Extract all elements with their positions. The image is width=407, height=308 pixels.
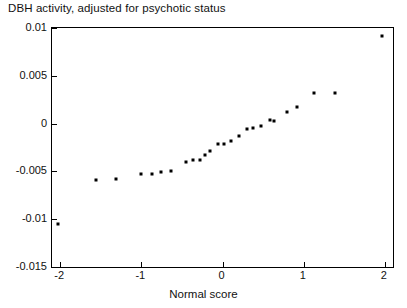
data-point bbox=[198, 159, 201, 162]
data-point bbox=[192, 159, 195, 162]
x-tick-mark bbox=[385, 262, 386, 267]
y-tick-label: -0.01 bbox=[22, 212, 47, 224]
data-point bbox=[217, 143, 220, 146]
x-tick-label: 1 bbox=[300, 269, 306, 281]
data-point bbox=[150, 173, 153, 176]
data-point bbox=[229, 140, 232, 143]
data-point bbox=[209, 149, 212, 152]
data-point bbox=[252, 127, 255, 130]
data-point bbox=[140, 172, 143, 175]
chart-figure: DBH activity, adjusted for psychotic sta… bbox=[0, 0, 407, 308]
y-tick-mark bbox=[52, 76, 57, 77]
data-point bbox=[334, 92, 337, 95]
data-point bbox=[203, 154, 206, 157]
y-tick-mark bbox=[52, 219, 57, 220]
x-tick-mark bbox=[60, 262, 61, 267]
x-tick-label: -2 bbox=[54, 269, 64, 281]
y-tick-label: 0.005 bbox=[19, 69, 47, 81]
y-tick-label: -0.015 bbox=[16, 260, 47, 272]
data-point bbox=[170, 170, 173, 173]
data-point bbox=[159, 170, 162, 173]
y-tick-mark bbox=[52, 28, 57, 29]
data-point bbox=[56, 222, 59, 225]
y-tick-label: 0.01 bbox=[26, 21, 47, 33]
data-point bbox=[184, 160, 187, 163]
plot-area bbox=[51, 27, 394, 268]
y-tick-mark bbox=[52, 124, 57, 125]
data-point bbox=[223, 142, 226, 145]
data-point bbox=[296, 105, 299, 108]
x-tick-mark bbox=[141, 262, 142, 267]
y-tick-mark bbox=[52, 171, 57, 172]
y-tick-mark bbox=[52, 267, 57, 268]
x-tick-mark bbox=[223, 262, 224, 267]
data-point bbox=[285, 111, 288, 114]
data-point bbox=[380, 34, 383, 37]
data-point bbox=[260, 125, 263, 128]
x-tick-label: -1 bbox=[135, 269, 145, 281]
y-tick-label: 0 bbox=[41, 117, 47, 129]
y-tick-label: -0.005 bbox=[16, 164, 47, 176]
y-axis-labels: 0.010.0050-0.005-0.01-0.015 bbox=[0, 0, 47, 308]
x-tick-label: 0 bbox=[218, 269, 224, 281]
data-point bbox=[245, 127, 248, 130]
data-point bbox=[115, 177, 118, 180]
data-point bbox=[237, 134, 240, 137]
x-tick-label: 2 bbox=[381, 269, 387, 281]
data-point bbox=[313, 92, 316, 95]
x-tick-mark bbox=[304, 262, 305, 267]
data-point bbox=[268, 119, 271, 122]
x-axis-title: Normal score bbox=[0, 288, 407, 300]
data-point bbox=[272, 119, 275, 122]
data-point bbox=[94, 179, 97, 182]
